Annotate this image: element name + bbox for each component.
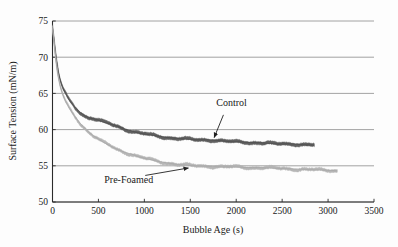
x-tick-label-1500: 1500 xyxy=(181,206,200,216)
x-tick-label-3000: 3000 xyxy=(319,206,338,216)
x-tick-label-2500: 2500 xyxy=(273,206,292,216)
chart-canvas: 0500100015002000250030003500 50556065707… xyxy=(0,0,398,247)
x-tick-label-500: 500 xyxy=(91,206,106,216)
pre-foamed-annotation-label: Pre-Foamed xyxy=(104,174,153,185)
y-tick-label-55: 55 xyxy=(39,161,49,171)
x-axis-title: Bubble Age (s) xyxy=(183,224,244,236)
y-tick-label-65: 65 xyxy=(39,89,49,99)
y-tick-label-75: 75 xyxy=(39,16,49,26)
x-tick-label-1000: 1000 xyxy=(135,206,154,216)
y-tick-label-60: 60 xyxy=(39,125,49,135)
x-tick-label-0: 0 xyxy=(50,206,55,216)
y-tick-label-70: 70 xyxy=(39,53,49,63)
x-tick-label-3500: 3500 xyxy=(365,206,384,216)
y-axis-title: Surface Tension (mN/m) xyxy=(7,61,19,160)
control-annotation-label: Control xyxy=(216,97,247,108)
surface-tension-figure: 0500100015002000250030003500 50556065707… xyxy=(0,0,398,247)
x-tick-label-2000: 2000 xyxy=(227,206,246,216)
y-tick-label-50: 50 xyxy=(39,197,49,207)
